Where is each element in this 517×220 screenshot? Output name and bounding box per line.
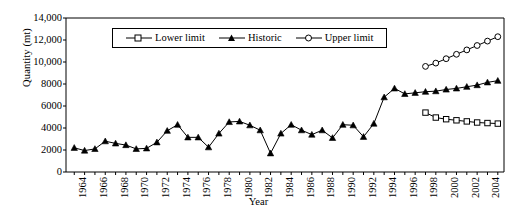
data-point-marker bbox=[423, 64, 429, 70]
data-point-marker bbox=[102, 138, 108, 144]
data-point-marker bbox=[423, 110, 428, 115]
series-upper-limit bbox=[423, 34, 501, 70]
data-point-marker bbox=[92, 146, 98, 152]
data-point-marker bbox=[495, 121, 500, 126]
data-point-marker bbox=[443, 117, 448, 122]
data-point-marker bbox=[257, 127, 263, 133]
chart-figure: Quantity (mt) Year 0200040006000800010,0… bbox=[0, 0, 517, 220]
data-point-marker bbox=[71, 145, 77, 151]
legend-item-upper-limit: Upper limit bbox=[296, 31, 374, 44]
data-point-marker bbox=[433, 60, 439, 66]
data-point-marker bbox=[474, 43, 480, 49]
legend-item-historic: Historic bbox=[219, 31, 282, 44]
data-point-marker bbox=[433, 115, 438, 120]
data-point-marker bbox=[443, 56, 449, 62]
data-point-marker bbox=[485, 120, 490, 125]
legend-label: Upper limit bbox=[325, 32, 374, 43]
data-point-marker bbox=[454, 118, 459, 123]
chart-legend: Lower limitHistoricUpper limit bbox=[112, 28, 387, 48]
data-point-marker bbox=[309, 131, 315, 137]
legend-label: Historic bbox=[248, 32, 282, 43]
legend-marker-icon bbox=[296, 31, 322, 42]
data-point-marker bbox=[174, 122, 180, 128]
series-lower-limit bbox=[423, 110, 501, 126]
data-point-marker bbox=[319, 127, 325, 133]
data-point-marker bbox=[298, 127, 304, 133]
data-point-marker bbox=[391, 85, 397, 91]
data-point-marker bbox=[267, 150, 273, 156]
data-point-marker bbox=[454, 51, 460, 57]
data-point-marker bbox=[164, 128, 170, 134]
data-point-marker bbox=[474, 120, 479, 125]
data-point-marker bbox=[288, 122, 294, 128]
data-point-marker bbox=[371, 120, 377, 126]
legend-item-lower-limit: Lower limit bbox=[126, 31, 205, 44]
legend-marker-icon bbox=[126, 31, 152, 42]
data-point-marker bbox=[247, 122, 253, 128]
data-point-marker bbox=[495, 78, 501, 84]
legend-label: Lower limit bbox=[155, 32, 205, 43]
data-point-marker bbox=[495, 34, 501, 40]
data-point-marker bbox=[485, 38, 491, 44]
data-point-marker bbox=[464, 119, 469, 124]
legend-marker-icon bbox=[219, 31, 245, 42]
data-point-marker bbox=[464, 47, 470, 53]
